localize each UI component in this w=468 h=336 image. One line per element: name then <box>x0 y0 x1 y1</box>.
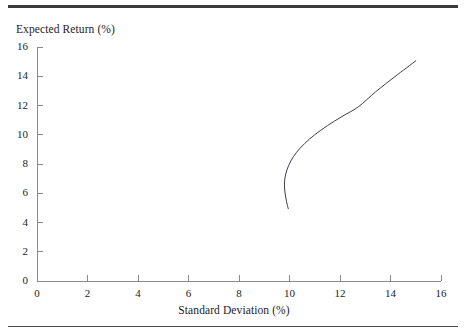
x-tick-label: 10 <box>279 287 301 299</box>
x-tick-label: 4 <box>127 287 149 299</box>
x-tick-label: 8 <box>228 287 250 299</box>
x-tick-label: 0 <box>26 287 48 299</box>
x-tick-label: 12 <box>329 287 351 299</box>
frontier-curve <box>284 61 415 209</box>
y-tick-label: 14 <box>6 69 28 81</box>
x-tick-label: 6 <box>178 287 200 299</box>
y-tick-label: 0 <box>6 274 28 286</box>
y-tick-label: 16 <box>6 40 28 52</box>
y-tick-label: 12 <box>6 99 28 111</box>
x-tick-label: 2 <box>77 287 99 299</box>
axes <box>37 47 441 281</box>
y-tick-label: 2 <box>6 245 28 257</box>
y-tick-label: 4 <box>6 216 28 228</box>
x-axis-title: Standard Deviation (%) <box>0 304 468 316</box>
x-tick-label: 14 <box>380 287 402 299</box>
plot-area <box>0 0 468 336</box>
chart-figure: Expected Return (%) 0246810121416 024681… <box>0 0 468 336</box>
efficient-frontier-line <box>284 61 415 209</box>
y-tick-label: 10 <box>6 128 28 140</box>
y-tick-label: 6 <box>6 186 28 198</box>
x-tick-label: 16 <box>430 287 452 299</box>
y-tick-label: 8 <box>6 157 28 169</box>
